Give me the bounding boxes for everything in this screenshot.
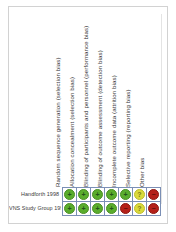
study-label-column: Handforth 1998VNS Study Group 1995 (9, 187, 61, 215)
low-risk-icon: + (106, 203, 117, 214)
column-header-2: Allocation concealment (selection bias) (65, 9, 79, 187)
judgement-glyph: + (67, 191, 71, 198)
judgement-cell[interactable]: + (105, 188, 119, 202)
judgement-glyph: + (67, 205, 71, 212)
judgement-glyph: + (123, 191, 127, 198)
column-header-5: Incomplete outcome data (attrition bias) (107, 9, 121, 187)
high-risk-icon: − (148, 189, 159, 200)
judgement-cell[interactable]: + (105, 202, 119, 216)
judgement-glyph: + (95, 205, 99, 212)
judgement-cell[interactable]: − (147, 188, 161, 202)
judgement-cell[interactable]: + (77, 188, 91, 202)
low-risk-icon: + (92, 189, 103, 200)
column-header-7: Other bias (135, 9, 149, 187)
column-header-1: Random sequence generation (selection bi… (51, 9, 65, 187)
high-risk-icon: − (120, 203, 131, 214)
judgement-glyph: + (81, 191, 85, 198)
risk-of-bias-grid: +++++?−++++−?− (62, 187, 161, 216)
low-risk-icon: + (92, 203, 103, 214)
judgement-glyph: ? (137, 191, 141, 198)
judgement-cell[interactable]: + (77, 202, 91, 216)
judgement-glyph: ? (137, 205, 141, 212)
high-risk-icon: − (148, 203, 159, 214)
low-risk-icon: + (64, 203, 75, 214)
judgement-cell[interactable]: ? (133, 188, 147, 202)
judgement-glyph: + (109, 191, 113, 198)
judgement-glyph: − (123, 205, 127, 212)
study-label: Handforth 1998 (9, 187, 61, 201)
judgement-cell[interactable]: − (119, 202, 133, 216)
unclear-risk-icon: ? (134, 203, 145, 214)
study-label: VNS Study Group 1995 (9, 201, 61, 215)
column-header-4: Blinding of outcome assessment (detectio… (93, 9, 107, 187)
judgement-cell[interactable]: + (63, 202, 77, 216)
risk-of-bias-figure: Random sequence generation (selection bi… (0, 0, 176, 232)
judgement-glyph: − (151, 205, 155, 212)
low-risk-icon: + (106, 189, 117, 200)
low-risk-icon: + (64, 189, 75, 200)
judgement-cell[interactable]: + (91, 188, 105, 202)
low-risk-icon: + (120, 189, 131, 200)
table-row: ++++−?− (63, 202, 161, 216)
judgement-glyph: + (109, 205, 113, 212)
judgement-cell[interactable]: + (91, 202, 105, 216)
unclear-risk-icon: ? (134, 189, 145, 200)
judgement-cell[interactable]: − (147, 202, 161, 216)
judgement-cell[interactable]: + (63, 188, 77, 202)
judgement-cell[interactable]: ? (133, 202, 147, 216)
judgement-glyph: + (81, 205, 85, 212)
low-risk-icon: + (78, 203, 89, 214)
low-risk-icon: + (78, 189, 89, 200)
column-header-band: Random sequence generation (selection bi… (62, 8, 168, 187)
column-header-6: Selective reporting (reporting bias) (121, 9, 135, 187)
judgement-glyph: − (151, 191, 155, 198)
column-header-3: Blinding of participants and personnel (… (79, 9, 93, 187)
table-row: +++++?− (63, 188, 161, 202)
judgement-glyph: + (95, 191, 99, 198)
judgement-cell[interactable]: + (119, 188, 133, 202)
